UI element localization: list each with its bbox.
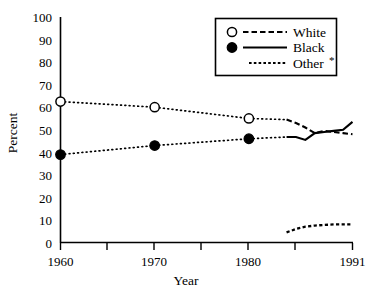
other-series-dashed-line: [287, 224, 353, 232]
legend-label-other: Other: [293, 56, 324, 71]
x-tick-label: 1980: [235, 254, 261, 269]
y-tick-label: 20: [39, 191, 52, 206]
y-tick-label: 90: [39, 33, 52, 48]
y-tick-label: 40: [39, 146, 52, 161]
legend-label-white: White: [293, 25, 326, 40]
legend-marker-black-filled-circle: [227, 43, 237, 53]
x-tick-label: 1991: [340, 254, 366, 269]
black-data-point: [244, 134, 254, 144]
x-axis-tick-labels: 1960 1970 1980 1991: [48, 254, 366, 269]
legend-footnote-asterisk: *: [329, 54, 335, 66]
chart-container: 100 90 80 70 60 50 40 30 20 10 0 1960 19…: [0, 0, 373, 295]
x-tick-label: 1970: [141, 254, 167, 269]
y-tick-label: 80: [39, 55, 52, 70]
x-tick-label: 1960: [48, 254, 74, 269]
black-data-point: [56, 150, 66, 160]
black-series-solid-line: [287, 122, 353, 140]
white-data-point: [244, 114, 253, 123]
line-chart: 100 90 80 70 60 50 40 30 20 10 0 1960 19…: [0, 0, 373, 295]
x-axis-ticks: [61, 243, 353, 250]
y-tick-label: 60: [39, 100, 52, 115]
y-tick-label: 0: [46, 236, 53, 251]
legend-label-black: Black: [293, 40, 325, 55]
legend-marker-white-open-circle: [227, 27, 236, 36]
x-axis-title: Year: [174, 273, 199, 288]
black-data-point: [150, 141, 160, 151]
y-tick-label: 10: [39, 213, 52, 228]
series-group: [56, 97, 353, 232]
y-axis-tick-labels: 100 90 80 70 60 50 40 30 20 10 0: [33, 10, 53, 251]
y-tick-label: 30: [39, 168, 52, 183]
legend: White Black Other *: [216, 19, 337, 76]
black-series-markers: [56, 134, 254, 159]
white-data-point: [150, 103, 159, 112]
y-tick-label: 70: [39, 78, 52, 93]
white-series-markers: [56, 97, 254, 123]
y-tick-label: 100: [33, 10, 53, 25]
y-tick-label: 50: [39, 123, 52, 138]
y-axis-title: Percent: [5, 113, 20, 154]
white-data-point: [56, 97, 65, 106]
